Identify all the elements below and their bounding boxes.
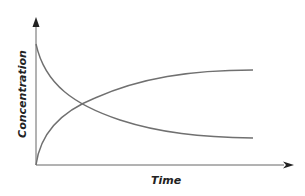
decreasing-curve	[36, 44, 253, 138]
increasing-curve	[36, 70, 253, 165]
x-axis-label: Time	[151, 174, 182, 187]
y-axis-arrow-icon	[33, 17, 40, 27]
x-axis	[36, 162, 294, 169]
y-axis-label: Concentration	[16, 50, 29, 138]
y-axis	[33, 17, 40, 165]
concentration-time-diagram: Concentration Time	[0, 0, 305, 196]
x-axis-arrow-icon	[283, 162, 294, 169]
